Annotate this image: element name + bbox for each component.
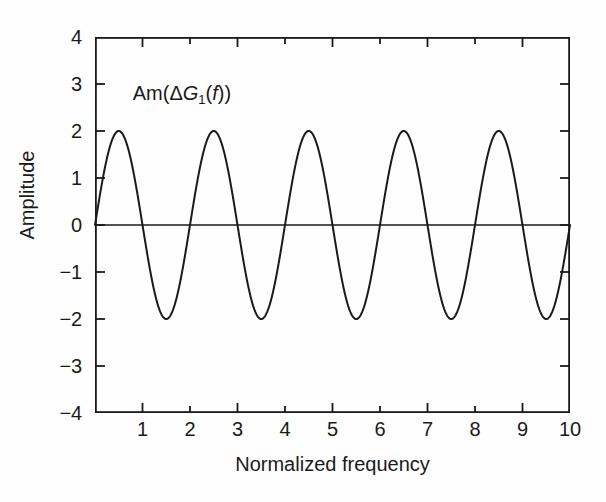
x-tick-label: 5	[313, 418, 353, 440]
x-tick-label: 1	[123, 418, 163, 440]
x-tick-label: 2	[170, 418, 210, 440]
y-axis-title-container: Amplitude	[14, 105, 40, 285]
x-tick-label: 4	[265, 418, 305, 440]
annotation-delta-symbol: Δ	[169, 82, 182, 104]
y-tick-label: 2	[48, 121, 82, 141]
curve-annotation-label: Am(ΔG1(f))	[133, 81, 231, 112]
y-tick-label: 0	[48, 215, 82, 235]
annotation-g-symbol: G	[183, 82, 199, 104]
y-tick-label: 1	[48, 168, 82, 188]
annotation-subscript: 1	[198, 92, 205, 107]
x-tick-label: 7	[408, 418, 448, 440]
x-tick-label: 8	[455, 418, 495, 440]
y-tick-label: 4	[48, 27, 82, 47]
x-tick-label: 9	[503, 418, 543, 440]
y-axis-title: Amplitude	[14, 105, 40, 285]
y-axis-tick-labels: −4−3−2−101234	[48, 37, 82, 413]
y-tick-label: −4	[48, 403, 82, 423]
x-axis-title: Normalized frequency	[95, 452, 570, 476]
y-tick-label: −1	[48, 262, 82, 282]
annotation-close-parens: ))	[218, 82, 231, 104]
x-tick-label: 3	[218, 418, 258, 440]
x-axis-tick-labels: 12345678910	[95, 418, 570, 446]
x-tick-label: 10	[550, 418, 590, 440]
x-tick-label: 6	[360, 418, 400, 440]
y-tick-label: 3	[48, 74, 82, 94]
figure-canvas: Amplitude −4−3−2−101234 Am(ΔG1(f)) 12345…	[0, 0, 606, 502]
plot-area: Am(ΔG1(f))	[95, 37, 570, 413]
y-tick-label: −2	[48, 309, 82, 329]
annotation-prefix: Am(	[133, 82, 170, 104]
y-tick-label: −3	[48, 356, 82, 376]
